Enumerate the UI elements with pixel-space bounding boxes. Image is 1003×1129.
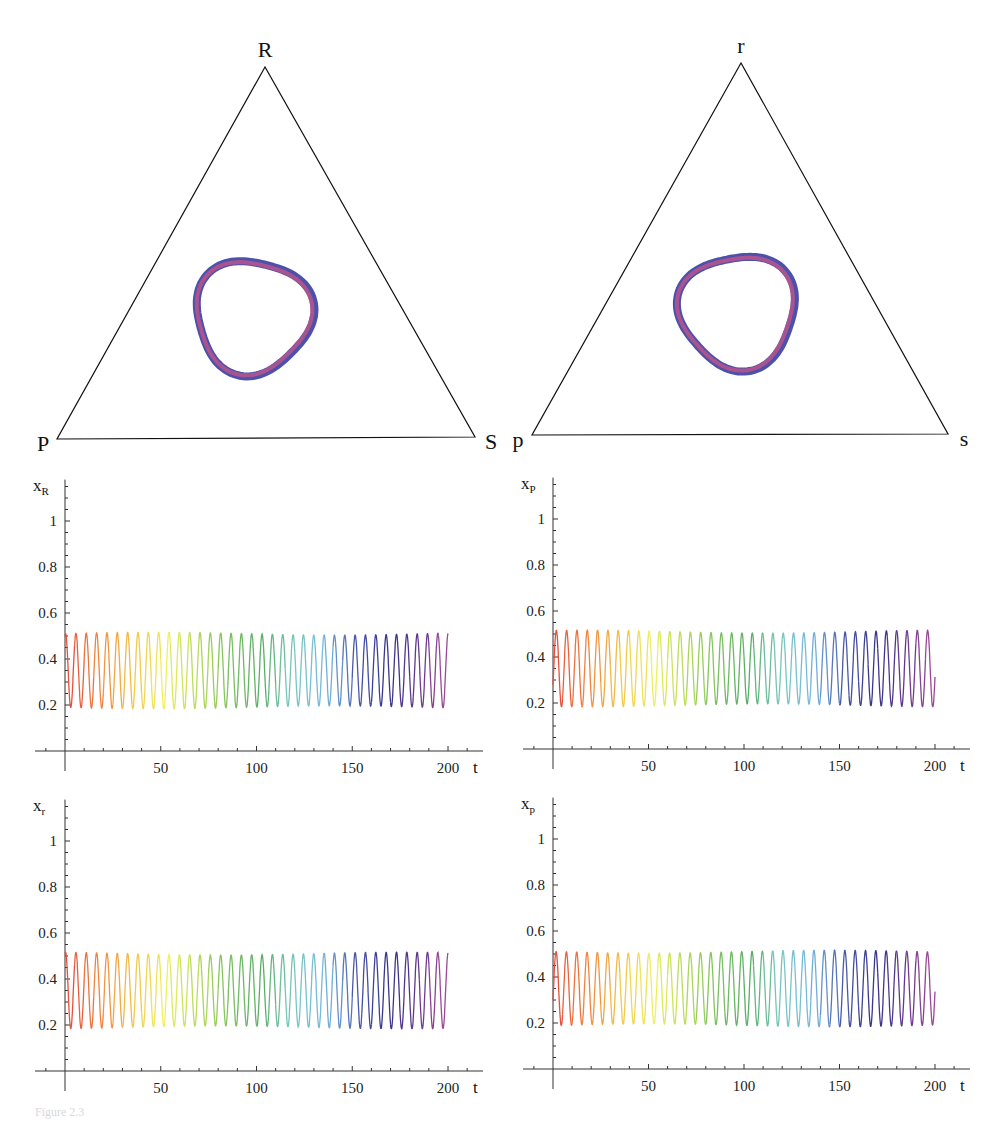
y-axis-label: xR	[33, 476, 50, 497]
oscillation-curve	[553, 630, 935, 707]
svg-text:0.6: 0.6	[38, 925, 57, 941]
svg-text:100: 100	[733, 1078, 756, 1094]
simplex-triangle	[57, 67, 475, 439]
svg-text:50: 50	[153, 1080, 168, 1096]
oscillation-curve	[65, 952, 448, 1029]
timeseries-panel-xP: 501001502000.20.40.60.81 xP t	[521, 474, 970, 775]
y-axis-label: xr	[33, 796, 46, 817]
timeseries-panel-xr: 501001502000.20.40.60.81 xr t	[33, 796, 483, 1097]
x-axis-label: t	[960, 1076, 965, 1095]
svg-text:100: 100	[245, 1080, 268, 1096]
axes: 501001502000.20.40.60.81	[523, 478, 970, 774]
svg-text:100: 100	[245, 760, 268, 776]
svg-text:0.6: 0.6	[526, 923, 545, 939]
svg-text:0.8: 0.8	[38, 559, 57, 575]
axes: 501001502000.20.40.60.81	[523, 798, 970, 1094]
svg-text:0.2: 0.2	[526, 1015, 545, 1031]
svg-text:150: 150	[341, 760, 364, 776]
simplex-plot-1: R P S	[37, 37, 497, 456]
svg-text:0.8: 0.8	[526, 557, 545, 573]
y-axis-label: xP	[521, 474, 536, 495]
x-axis-label: t	[473, 1078, 478, 1097]
svg-text:0.2: 0.2	[38, 697, 57, 713]
svg-text:0.2: 0.2	[38, 1017, 57, 1033]
svg-text:100: 100	[733, 758, 756, 774]
svg-text:150: 150	[828, 758, 851, 774]
svg-text:200: 200	[924, 758, 947, 774]
vertex-label-top: r	[737, 33, 745, 58]
svg-text:0.4: 0.4	[526, 969, 545, 985]
simplex-plot-2: r p s	[513, 33, 969, 452]
figure-caption: Figure 2.3	[35, 1105, 84, 1120]
axes: 501001502000.20.40.60.81	[35, 800, 483, 1096]
svg-text:0.6: 0.6	[526, 603, 545, 619]
svg-text:200: 200	[924, 1078, 947, 1094]
vertex-label-top: R	[258, 37, 273, 62]
timeseries-panel-xp: 501001502000.20.40.60.81 xp t	[521, 794, 970, 1095]
vertex-label-right: S	[485, 429, 497, 454]
svg-text:0.4: 0.4	[526, 649, 545, 665]
x-axis-label: t	[473, 758, 478, 777]
svg-text:0.8: 0.8	[38, 879, 57, 895]
svg-text:1: 1	[538, 511, 546, 527]
svg-text:0.2: 0.2	[526, 695, 545, 711]
svg-text:200: 200	[437, 1080, 460, 1096]
svg-text:0.4: 0.4	[38, 651, 57, 667]
limit-cycle-orbit	[197, 261, 315, 376]
timeseries-panel-xR: 501001502000.20.40.60.81 xR t	[33, 476, 483, 777]
svg-text:50: 50	[641, 1078, 656, 1094]
svg-text:200: 200	[437, 760, 460, 776]
vertex-label-left: P	[37, 431, 49, 456]
oscillation-curve	[65, 632, 448, 709]
svg-text:1: 1	[50, 513, 58, 529]
svg-text:50: 50	[641, 758, 656, 774]
figure-canvas: R P S r p s 501001502000.20.40.60.81 xR …	[0, 0, 1003, 1129]
axes: 501001502000.20.40.60.81	[35, 480, 483, 776]
vertex-label-left: p	[513, 427, 524, 452]
limit-cycle-orbit	[677, 257, 795, 372]
svg-text:0.6: 0.6	[38, 605, 57, 621]
svg-text:1: 1	[538, 831, 546, 847]
svg-text:1: 1	[50, 833, 58, 849]
oscillation-curve	[553, 950, 935, 1027]
svg-text:50: 50	[153, 760, 168, 776]
vertex-label-right: s	[960, 426, 969, 451]
svg-text:150: 150	[341, 1080, 364, 1096]
y-axis-label: xp	[521, 794, 536, 815]
svg-text:150: 150	[828, 1078, 851, 1094]
x-axis-label: t	[960, 756, 965, 775]
svg-text:0.4: 0.4	[38, 971, 57, 987]
svg-text:0.8: 0.8	[526, 877, 545, 893]
simplex-triangle	[532, 63, 948, 435]
